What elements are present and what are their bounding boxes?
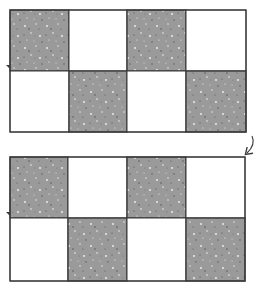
grid-cell-empty bbox=[186, 157, 245, 218]
grid-cell-empty bbox=[68, 157, 127, 218]
bottom-grid bbox=[10, 157, 245, 281]
grid-cell-empty bbox=[69, 10, 127, 71]
grid-cell-empty bbox=[186, 10, 246, 71]
curved-arrow-icon bbox=[247, 136, 253, 153]
grid-cell-empty bbox=[10, 71, 69, 132]
grid-cell-shaded bbox=[127, 10, 186, 71]
grid-cell-empty bbox=[127, 71, 186, 132]
grid-cell-empty bbox=[10, 218, 68, 281]
grid-cell-shaded bbox=[186, 218, 245, 281]
grid-cell-shaded bbox=[127, 157, 186, 218]
grid-cell-empty bbox=[127, 218, 186, 281]
checkerboard-diagram bbox=[0, 0, 259, 293]
edge-mark-icon bbox=[6, 212, 10, 216]
diagram-canvas bbox=[0, 0, 259, 293]
grid-cell-shaded bbox=[68, 218, 127, 281]
top-grid bbox=[10, 10, 246, 132]
grid-cell-shaded bbox=[10, 10, 69, 71]
grid-cell-shaded bbox=[186, 71, 246, 132]
grid-cell-shaded bbox=[69, 71, 127, 132]
grid-cell-shaded bbox=[10, 157, 68, 218]
